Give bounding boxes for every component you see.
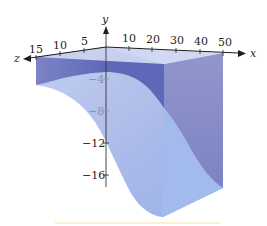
y-tick-label: −16	[82, 169, 105, 182]
x-axis-arrow-icon	[238, 50, 246, 57]
x-tick-label: 40	[194, 35, 208, 48]
x-tick-label: 50	[218, 36, 232, 49]
y-axis-arrow-icon	[103, 26, 109, 34]
x-tick-label: 20	[146, 33, 160, 46]
surface-plot-3d: y x z 10 20 30 40 50 15 10 5 −4 −8 −12 −…	[0, 0, 267, 226]
y-tick-label: −12	[82, 137, 105, 150]
z-axis-label: z	[13, 52, 20, 65]
z-tick-label: 10	[53, 39, 67, 52]
x-tick-label: 10	[122, 32, 136, 45]
y-tick-label: −4	[88, 73, 104, 86]
x-tick-label: 30	[170, 34, 184, 47]
y-axis-label: y	[101, 13, 109, 26]
z-tick-label: 5	[81, 35, 88, 48]
y-tick-label: −8	[88, 105, 104, 118]
z-tick-label: 15	[29, 43, 43, 56]
x-axis-label: x	[250, 47, 257, 60]
z-axis-arrow-icon	[23, 55, 31, 62]
